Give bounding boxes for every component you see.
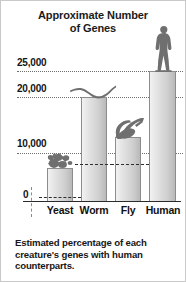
pct-dash-fly — [111, 164, 149, 165]
y-axis-dashed-stub — [31, 187, 32, 217]
bar-worm — [81, 97, 107, 202]
x-axis-line — [23, 201, 181, 202]
fly-icon — [111, 117, 145, 139]
bar-human — [149, 71, 176, 202]
pct-dash-yeast — [39, 197, 81, 198]
pct-dash-worm — [75, 164, 113, 165]
human-icon — [152, 25, 174, 72]
y-axis-tick-0: 0 — [23, 189, 28, 200]
yeast-cells-icon — [45, 151, 75, 170]
worm-icon — [69, 83, 117, 99]
chart-figure: Approximate Number of Genes 25,000 20,00… — [0, 0, 186, 282]
plot-area: 25,000 20,000 10,000 0 — [1, 1, 185, 213]
x-axis-label-human: Human — [139, 204, 186, 216]
y-axis-tick-10000: 10,000 — [17, 138, 46, 149]
y-axis-tick-20000: 20,000 — [17, 83, 46, 94]
chart-caption: Estimated percentage of each creature's … — [15, 237, 175, 272]
caption-line1: Estimated percentage of each — [15, 237, 175, 249]
caption-line2: creature's genes with human — [15, 249, 175, 261]
caption-line3: counterparts. — [15, 260, 175, 272]
bar-fly — [115, 137, 141, 202]
y-axis-tick-25000: 25,000 — [17, 57, 46, 68]
